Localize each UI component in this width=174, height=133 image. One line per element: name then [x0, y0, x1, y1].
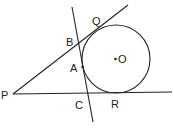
label-r: R [111, 98, 119, 110]
label-p: P [1, 89, 8, 101]
geometry-diagram: P Q B A O C R [0, 0, 174, 133]
label-o: O [118, 53, 127, 65]
label-c: C [75, 99, 83, 111]
label-b: B [66, 36, 73, 48]
tangent-line-pq [13, 5, 128, 94]
label-q: Q [92, 15, 101, 27]
center-point-o [114, 58, 117, 61]
label-a: A [70, 62, 78, 74]
tangent-line-pr [13, 92, 172, 94]
point-a [81, 66, 83, 68]
